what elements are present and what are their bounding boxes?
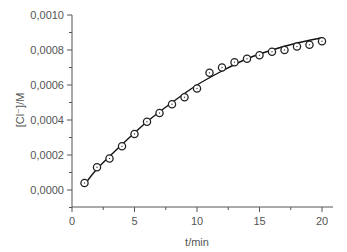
y-tick-label: 0,0006: [30, 79, 64, 91]
x-tick-label: 5: [131, 215, 137, 227]
y-tick-label: 0,0008: [30, 44, 64, 56]
y-tick-label: 0,0002: [30, 149, 64, 161]
x-tick-label: 15: [253, 215, 265, 227]
y-tick-label: 0,0010: [30, 9, 64, 21]
data-markers: [81, 38, 326, 187]
y-tick-label: 0,0000: [30, 184, 64, 196]
x-axis-label: t/min: [185, 236, 209, 248]
y-axis: 0,00000,00020,00040,00060,00080,0010: [30, 9, 72, 208]
chart: 0,00000,00020,00040,00060,00080,0010 051…: [0, 0, 347, 252]
y-tick-label: 0,0004: [30, 114, 64, 126]
x-axis: 05101520: [69, 207, 333, 227]
x-tick-label: 10: [191, 215, 203, 227]
x-tick-label: 0: [69, 215, 75, 227]
x-tick-label: 20: [316, 215, 328, 227]
y-axis-label: [Cl⁻]/M: [14, 93, 26, 128]
fit-curve: [83, 38, 322, 187]
